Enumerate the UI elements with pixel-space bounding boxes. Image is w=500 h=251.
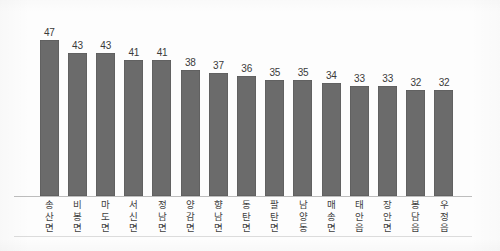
category-label-glyph: 향 [205, 199, 232, 211]
bar-slot: 38 [177, 10, 204, 196]
category-label-glyph: 면 [92, 222, 119, 234]
bar-slot: 33 [346, 10, 373, 196]
bar-slot: 41 [121, 10, 148, 196]
category-label: 우정읍 [431, 199, 458, 234]
bar-value-label: 32 [403, 77, 430, 88]
category-label-glyph: 면 [262, 222, 289, 234]
category-label-glyph: 동 [290, 222, 317, 234]
bar[interactable] [434, 90, 453, 196]
x-axis-line [14, 196, 472, 197]
category-label-glyph: 안 [374, 211, 401, 223]
category-label-glyph: 면 [318, 222, 345, 234]
bar-value-label: 33 [374, 73, 401, 84]
bar[interactable] [209, 73, 228, 196]
category-label-glyph: 면 [149, 222, 176, 234]
category-label: 봉담읍 [403, 199, 430, 234]
category-label-glyph: 읍 [346, 222, 373, 234]
bar[interactable] [40, 40, 59, 196]
category-label-glyph: 서 [121, 199, 148, 211]
category-label-glyph: 봉 [64, 211, 91, 223]
bar-slot: 43 [64, 10, 91, 196]
category-label-glyph: 우 [431, 199, 458, 211]
bar-value-label: 35 [290, 67, 317, 78]
category-label-row: 송산면비봉면마도면서신면정남면양감면향남면동탄면팔탄면남양동매송면태안읍장안면봉… [36, 199, 460, 235]
category-label-glyph: 비 [64, 199, 91, 211]
category-label: 마도면 [92, 199, 119, 234]
category-label-glyph: 송 [36, 199, 63, 211]
category-label-glyph: 신 [121, 211, 148, 223]
bar[interactable] [96, 53, 115, 196]
category-label-glyph: 산 [36, 211, 63, 223]
category-label: 태안읍 [346, 199, 373, 234]
bar-slot: 35 [290, 10, 317, 196]
category-label-glyph: 읍 [431, 222, 458, 234]
category-label-glyph: 봉 [403, 199, 430, 211]
category-label-glyph: 남 [290, 199, 317, 211]
bar[interactable] [322, 83, 341, 196]
category-label: 남양동 [290, 199, 317, 234]
category-label-glyph: 안 [346, 211, 373, 223]
bar[interactable] [68, 53, 87, 196]
bar[interactable] [293, 80, 312, 196]
category-label-glyph: 면 [233, 222, 260, 234]
category-label-glyph: 감 [177, 211, 204, 223]
bar-slot: 34 [318, 10, 345, 196]
bar[interactable] [265, 80, 284, 196]
category-label-glyph: 면 [205, 222, 232, 234]
category-label-glyph: 장 [374, 199, 401, 211]
category-label-glyph: 양 [177, 199, 204, 211]
category-label: 정남면 [149, 199, 176, 234]
category-label-glyph: 팔 [262, 199, 289, 211]
category-label-glyph: 양 [290, 211, 317, 223]
bar-value-label: 33 [346, 73, 373, 84]
category-label: 매송면 [318, 199, 345, 234]
bar-slot: 41 [149, 10, 176, 196]
bar-value-label: 34 [318, 70, 345, 81]
category-label-glyph: 남 [205, 211, 232, 223]
category-label-glyph: 담 [403, 211, 430, 223]
bar-slot: 47 [36, 10, 63, 196]
bar-slot: 32 [431, 10, 458, 196]
bar-slot: 32 [403, 10, 430, 196]
bar[interactable] [124, 60, 143, 196]
category-label: 팔탄면 [262, 199, 289, 234]
bar-value-label: 36 [233, 63, 260, 74]
category-label-glyph: 면 [64, 222, 91, 234]
category-label-glyph: 도 [92, 211, 119, 223]
category-label: 향남면 [205, 199, 232, 234]
bar[interactable] [181, 70, 200, 196]
category-label-glyph: 탄 [262, 211, 289, 223]
bar-slot: 33 [374, 10, 401, 196]
bar[interactable] [406, 90, 425, 196]
category-label-glyph: 면 [121, 222, 148, 234]
category-label-glyph: 면 [36, 222, 63, 234]
category-label: 비봉면 [64, 199, 91, 234]
bar[interactable] [350, 86, 369, 196]
bar-value-label: 43 [92, 40, 119, 51]
category-label: 장안면 [374, 199, 401, 234]
bar-value-label: 35 [262, 67, 289, 78]
bar-value-label: 41 [121, 47, 148, 58]
bar-slot: 37 [205, 10, 232, 196]
bar-value-label: 37 [205, 60, 232, 71]
category-label-glyph: 송 [318, 211, 345, 223]
bar-value-label: 41 [149, 47, 176, 58]
category-label-glyph: 면 [177, 222, 204, 234]
bar[interactable] [378, 86, 397, 196]
category-label-glyph: 매 [318, 199, 345, 211]
category-label: 동탄면 [233, 199, 260, 234]
category-label-glyph: 정 [149, 199, 176, 211]
category-label: 송산면 [36, 199, 63, 234]
bar-value-label: 43 [64, 40, 91, 51]
bar-value-label: 47 [36, 27, 63, 38]
bar-slot: 35 [262, 10, 289, 196]
bar[interactable] [152, 60, 171, 196]
bar[interactable] [237, 76, 256, 196]
bar-value-label: 38 [177, 57, 204, 68]
bar-slot: 43 [92, 10, 119, 196]
category-label-glyph: 남 [149, 211, 176, 223]
category-label-glyph: 탄 [233, 211, 260, 223]
plot-area: 474343414138373635353433333232 [36, 10, 460, 196]
category-label-glyph: 면 [374, 222, 401, 234]
category-label-glyph: 마 [92, 199, 119, 211]
